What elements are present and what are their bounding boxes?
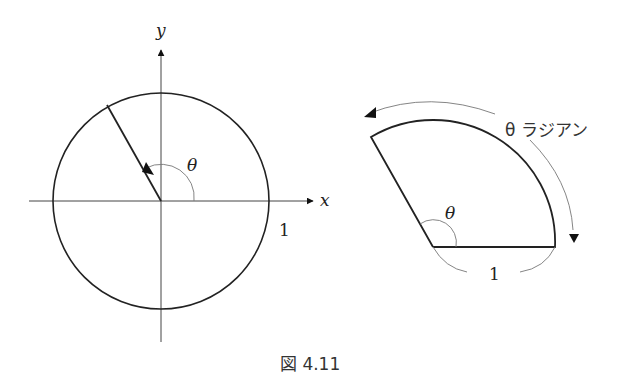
radius-brace-left (433, 247, 467, 272)
unit-circle-diagram (29, 50, 313, 342)
radius-line (107, 105, 161, 201)
left-theta-label: θ (187, 155, 197, 175)
arc-length-label: θ ラジアン (505, 120, 588, 140)
sector-radius-label: 1 (489, 264, 500, 284)
x-axis-label: x (320, 190, 330, 210)
arc-length-arrow-right (530, 140, 573, 230)
angle-arrowhead-icon (142, 162, 154, 175)
figure-caption: 図 4.11 (280, 354, 340, 374)
y-axis-label: y (155, 20, 166, 40)
left-radius-label: 1 (279, 220, 290, 240)
arc-arrowhead-top-icon (364, 107, 376, 118)
sector-theta-label: θ (445, 203, 455, 223)
arc-arrowhead-right-icon (569, 234, 579, 243)
figure-canvas: y x θ 1 θ 1 θ ラジアン 図 4.11 (0, 0, 628, 378)
radius-brace-right (520, 247, 555, 272)
arc-length-arrow-top (370, 102, 495, 114)
